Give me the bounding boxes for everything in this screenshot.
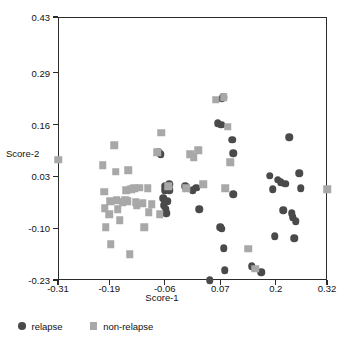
legend-label-relapse: relapse — [32, 321, 63, 332]
data-point-non-relapse — [116, 216, 124, 224]
y-tick-label: 0.43 — [32, 12, 51, 23]
data-point-non-relapse — [222, 185, 230, 193]
scatter-plot-figure: Score-2 Score-1 -0.23-0.100.030.160.290.… — [0, 0, 343, 347]
relapse-marker-icon — [18, 322, 26, 330]
data-point-non-relapse — [212, 96, 220, 104]
y-tick-label: 0.03 — [32, 171, 51, 182]
data-point-relapse — [297, 185, 305, 193]
data-point-non-relapse — [135, 184, 143, 192]
x-tick-label: 0.32 — [318, 283, 337, 294]
data-point-relapse — [228, 136, 236, 144]
data-point-non-relapse — [190, 154, 198, 162]
data-point-non-relapse — [224, 123, 232, 131]
legend-item-non-relapse: non-relapse — [90, 321, 154, 332]
data-point-non-relapse — [123, 198, 131, 206]
data-point-relapse — [269, 185, 277, 193]
data-point-non-relapse — [323, 185, 331, 193]
data-point-non-relapse — [194, 147, 202, 155]
data-point-relapse — [290, 234, 298, 242]
data-point-relapse — [271, 232, 279, 240]
data-point-non-relapse — [141, 224, 149, 232]
data-point-non-relapse — [153, 149, 161, 157]
data-point-non-relapse — [112, 168, 120, 176]
data-point-non-relapse — [164, 183, 172, 191]
legend-label-non-relapse: non-relapse — [103, 321, 153, 332]
data-point-relapse — [221, 266, 229, 274]
legend-item-relapse: relapse — [18, 321, 63, 332]
data-point-relapse — [196, 205, 204, 213]
y-tick-mark — [53, 176, 58, 177]
data-point-non-relapse — [220, 94, 228, 102]
data-point-non-relapse — [226, 159, 234, 167]
data-point-relapse — [286, 134, 294, 142]
y-tick-mark — [53, 72, 58, 73]
data-point-relapse — [292, 217, 300, 225]
data-point-non-relapse — [144, 185, 152, 193]
data-point-non-relapse — [148, 201, 156, 209]
data-point-non-relapse — [102, 224, 110, 232]
data-point-non-relapse — [182, 185, 190, 193]
y-tick-mark — [53, 228, 58, 229]
data-point-non-relapse — [244, 245, 252, 253]
data-point-non-relapse — [139, 200, 147, 208]
data-point-relapse — [206, 276, 214, 284]
data-point-non-relapse — [125, 167, 133, 175]
y-tick-mark — [53, 124, 58, 125]
plot-area — [58, 17, 327, 280]
data-point-non-relapse — [252, 265, 260, 273]
y-axis-title: Score-2 — [6, 148, 39, 159]
y-tick-label: -0.10 — [28, 223, 50, 234]
data-point-non-relapse — [54, 156, 62, 164]
legend: relapse non-relapse — [18, 316, 153, 336]
data-point-non-relapse — [99, 161, 107, 169]
non-relapse-marker-icon — [90, 322, 98, 330]
y-tick-mark — [53, 16, 58, 17]
y-tick-label: 0.16 — [32, 119, 51, 130]
data-point-non-relapse — [145, 209, 153, 217]
data-point-relapse — [162, 210, 170, 218]
x-tick-label: 0.07 — [211, 283, 230, 294]
data-point-non-relapse — [111, 142, 119, 150]
data-point-relapse — [229, 150, 237, 158]
data-point-relapse — [218, 225, 226, 233]
data-point-non-relapse — [107, 240, 115, 248]
data-point-relapse — [281, 180, 289, 188]
data-point-non-relapse — [114, 205, 122, 213]
data-point-relapse — [164, 198, 172, 206]
y-tick-label: 0.29 — [32, 67, 51, 78]
data-point-non-relapse — [105, 211, 113, 219]
data-point-relapse — [280, 207, 288, 215]
x-tick-label: -0.06 — [154, 283, 176, 294]
data-point-non-relapse — [126, 250, 134, 258]
data-point-non-relapse — [156, 211, 164, 219]
data-point-relapse — [220, 244, 228, 252]
data-point-relapse — [266, 172, 274, 180]
data-point-relapse — [229, 191, 237, 199]
x-tick-label: -0.31 — [47, 283, 69, 294]
data-point-relapse — [295, 169, 303, 177]
data-point-non-relapse — [100, 188, 108, 196]
x-tick-label: -0.19 — [98, 283, 120, 294]
data-point-non-relapse — [199, 181, 207, 189]
x-tick-label: 0.2 — [269, 283, 282, 294]
data-point-non-relapse — [158, 129, 166, 137]
